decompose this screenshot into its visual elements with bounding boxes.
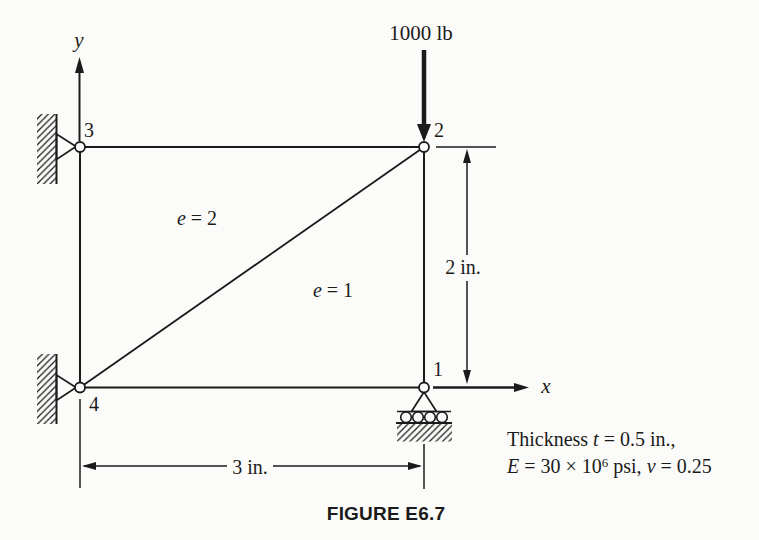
roller-support-node1: [396, 392, 452, 442]
x-axis-label: x: [541, 376, 550, 397]
element-e1-value: = 1: [322, 279, 353, 301]
load-label: 1000 lb: [389, 23, 453, 44]
ground-hatch-node1: [397, 424, 452, 442]
roller-circle-1: [401, 412, 412, 423]
dim-3in-arrow-left: [82, 462, 96, 470]
youngs-modulus-value: = 30 × 10: [519, 455, 602, 477]
pin-triangle-node4: [57, 375, 77, 401]
pin-support-node4: [37, 354, 76, 424]
load-arrowhead: [417, 124, 431, 142]
y-axis-arrowhead: [75, 57, 84, 73]
y-axis-label: y: [74, 30, 83, 51]
load-arrow-1000lb: [417, 50, 431, 142]
y-axis-arrow: [75, 57, 84, 141]
psi-unit-text: psi,: [608, 455, 646, 477]
figure-e6-7: y 1000 lb 3 2 4 1 x e = 2 e = 1 2 in. 3 …: [0, 0, 759, 540]
node-marker-3: [75, 142, 85, 152]
poisson-ratio-symbol: ν: [647, 455, 656, 477]
dimension-label-2in: 2 in.: [445, 257, 481, 277]
plate-members: [80, 147, 424, 388]
thickness-value: = 0.5 in.,: [599, 428, 676, 450]
roller-circle-2: [413, 412, 424, 423]
material-notes: Thickness t = 0.5 in., E = 30 × 106 psi,…: [507, 426, 712, 480]
x-axis-arrowhead: [514, 383, 529, 392]
node-label-2: 2: [434, 120, 444, 140]
pin-triangle-node3: [57, 134, 77, 160]
dim-2in-arrow-up: [463, 149, 471, 163]
element-e2-value: = 2: [186, 207, 217, 229]
wall-hatch-node3: [37, 114, 57, 184]
roller-circle-4: [437, 412, 448, 423]
element-label-e1: e = 1: [313, 280, 353, 300]
pin-support-node3: [37, 114, 76, 184]
dim-2in-arrow-down: [463, 370, 471, 384]
roller-circle-3: [425, 412, 436, 423]
element-e1-symbol: e: [313, 279, 322, 301]
roller-pin-triangle: [412, 392, 437, 412]
node-marker-2: [419, 142, 429, 152]
dimension-label-3in: 3 in.: [232, 457, 268, 477]
node-label-4: 4: [89, 394, 99, 414]
node-label-1: 1: [433, 359, 443, 379]
x-axis-arrow: [433, 383, 529, 392]
figure-caption: FIGURE E6.7: [327, 503, 445, 525]
material-notes-line1: Thickness t = 0.5 in.,: [507, 426, 712, 453]
member-diagonal: [80, 147, 424, 388]
node-label-3: 3: [84, 120, 94, 140]
node-marker-4: [75, 383, 85, 393]
thickness-text: Thickness: [507, 428, 593, 450]
element-e2-symbol: e: [177, 207, 186, 229]
wall-hatch-node4: [37, 354, 57, 424]
node-marker-1: [419, 383, 429, 393]
material-notes-line2: E = 30 × 106 psi, ν = 0.25: [507, 453, 712, 480]
youngs-modulus-symbol: E: [507, 455, 519, 477]
poisson-ratio-value: = 0.25: [656, 455, 712, 477]
dim-3in-arrow-right: [408, 462, 422, 470]
element-label-e2: e = 2: [177, 208, 217, 228]
